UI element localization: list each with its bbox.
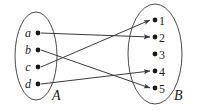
edge-a-to-2 (41, 33, 150, 37)
set-b-nodes: 12345 (153, 14, 165, 96)
set-a-element-label-c: c (25, 60, 31, 74)
node-dot-b (36, 48, 41, 53)
node-dot-c (36, 65, 41, 70)
node-dot-3 (153, 52, 158, 57)
mapping-diagram-figure: abcd 12345 A B (0, 0, 198, 111)
set-b-element-label-2: 2 (159, 31, 165, 45)
set-b-element-label-1: 1 (159, 14, 165, 28)
set-b-element-label-5: 5 (159, 82, 165, 96)
diagram-canvas: abcd 12345 A B (0, 0, 198, 111)
set-a-label: A (51, 88, 61, 103)
node-dot-d (36, 82, 41, 87)
set-b-element-label-3: 3 (159, 48, 165, 62)
set-a-element-label-a: a (25, 26, 31, 40)
set-a-element-label-d: d (25, 77, 32, 91)
node-dot-1 (153, 18, 158, 23)
set-a-ellipse (15, 12, 57, 100)
node-dot-2 (153, 35, 158, 40)
node-dot-a (36, 31, 41, 36)
set-b-element-label-4: 4 (159, 65, 165, 79)
node-dot-4 (153, 69, 158, 74)
edge-c-to-1 (41, 20, 150, 67)
node-dot-5 (153, 86, 158, 91)
set-b-label: B (174, 88, 183, 103)
set-a-element-label-b: b (25, 43, 31, 57)
set-a-nodes: abcd (25, 26, 40, 91)
